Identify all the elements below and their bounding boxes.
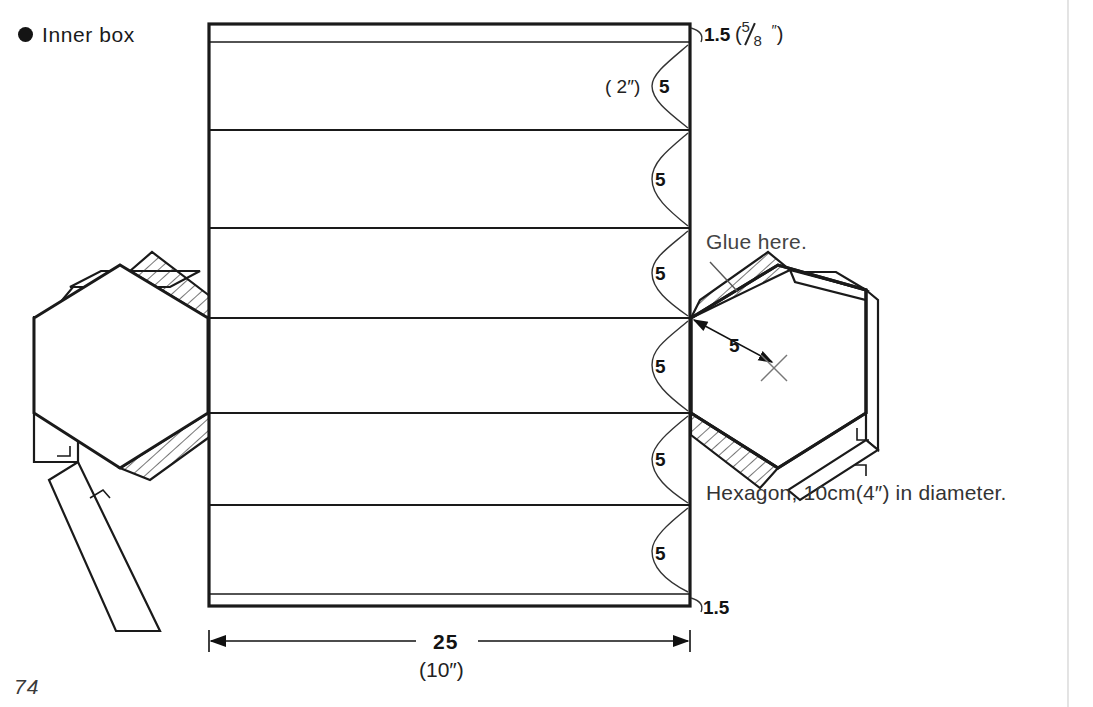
right-hexagon-group — [691, 252, 878, 500]
overall-width-value: 25 — [433, 631, 458, 652]
panel-dimension-6: 5 — [655, 544, 666, 563]
right-hex-glue-tab-lower — [691, 413, 778, 488]
panel-dimension-4: 5 — [655, 357, 666, 376]
overall-width-alt-value: (10″) — [419, 659, 464, 680]
fraction-denominator: 8 — [754, 33, 762, 48]
first-panel-dimension: 5 — [659, 77, 670, 96]
left-hexagon-group — [34, 252, 215, 631]
hexagon-edge-dimension-arrow — [694, 320, 787, 381]
bullet-icon — [18, 27, 33, 42]
brace-top — [691, 28, 702, 42]
top-flap-dimension: 1.5 (58″) — [704, 22, 784, 49]
fraction-five-eighths: 58 — [742, 25, 772, 49]
first-panel-alt-dimension: ( 2″) — [605, 77, 640, 96]
page-title: Inner box — [42, 24, 135, 45]
top-flap-value: 1.5 — [704, 24, 730, 45]
body-panel-outline — [209, 24, 690, 606]
hexagon-caption: Hexagon, 10cm(4″) in diameter. — [706, 482, 1007, 503]
panel-dimension-2: 5 — [655, 170, 666, 189]
panel-dimension-3: 5 — [655, 264, 666, 283]
diagram-page: Inner box 1.5 (58″) ( 2″) 5 5 5 5 5 5 1.… — [0, 0, 1093, 707]
glue-here-label: Glue here. — [706, 231, 807, 252]
panel-dimension-5: 5 — [655, 450, 666, 469]
center-cross-mark — [761, 355, 787, 381]
top-flap-paren-close: ) — [777, 23, 784, 45]
brace-bottom — [691, 598, 702, 612]
bottom-flap-dimension: 1.5 — [703, 598, 729, 617]
page-number: 74 — [14, 676, 39, 697]
hexagon-edge-dimension-label: 5 — [729, 336, 740, 355]
top-flap-paren-open: ( — [735, 23, 742, 45]
left-hex-flap-lower-left — [49, 462, 160, 631]
papercraft-net-drawing — [0, 0, 1093, 707]
